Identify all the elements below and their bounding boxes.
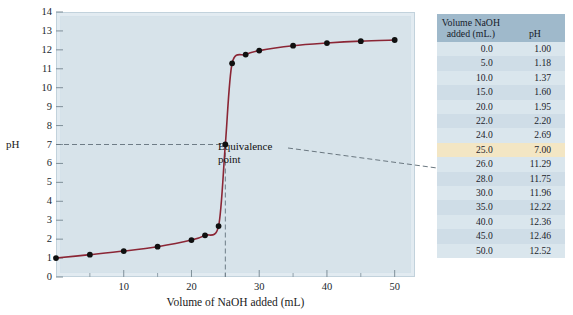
- x-tick-label: 20: [176, 281, 206, 292]
- table-body: 0.01.005.01.1810.01.3715.01.6020.01.9522…: [437, 42, 565, 258]
- cell-ph: 1.37: [507, 71, 565, 85]
- cell-volume: 0.0: [437, 42, 507, 56]
- y-tick-label: 3: [30, 215, 52, 225]
- y-tick-label: 7: [30, 140, 52, 150]
- table-header: Volume NaOHadded (mL.) pH: [437, 14, 565, 42]
- cell-volume: 50.0: [437, 244, 507, 258]
- cell-ph: 2.20: [507, 114, 565, 128]
- table-row: 28.011.75: [437, 172, 565, 186]
- table-row: 24.02.69: [437, 128, 565, 142]
- table-row: 40.012.36: [437, 215, 565, 229]
- y-tick-label: 13: [30, 26, 52, 36]
- cell-volume: 5.0: [437, 56, 507, 70]
- cell-volume: 15.0: [437, 85, 507, 99]
- cell-volume: 45.0: [437, 229, 507, 243]
- cell-ph: 12.52: [507, 244, 565, 258]
- cell-volume: 10.0: [437, 71, 507, 85]
- equivalence-point-annotation: Equivalencepoint: [218, 140, 272, 165]
- cell-ph: 1.95: [507, 100, 565, 114]
- table-row: 50.012.52: [437, 244, 565, 258]
- cell-ph: 2.69: [507, 128, 565, 142]
- y-tick-label: 2: [30, 234, 52, 244]
- table-row: 15.01.60: [437, 85, 565, 99]
- y-tick-label: 5: [30, 177, 52, 187]
- table-row: 5.01.18: [437, 56, 565, 70]
- cell-ph: 12.22: [507, 200, 565, 214]
- column-header-ph: pH: [507, 14, 565, 42]
- cell-volume: 24.0: [437, 128, 507, 142]
- table-row: 22.02.20: [437, 114, 565, 128]
- table-row-equivalence: 25.07.00: [437, 143, 565, 157]
- x-tick-label: 10: [109, 281, 139, 292]
- cell-volume: 30.0: [437, 186, 507, 200]
- y-tick-label: 9: [30, 102, 52, 112]
- cell-volume: 22.0: [437, 114, 507, 128]
- x-tick-label: 30: [244, 281, 274, 292]
- cell-volume: 35.0: [437, 200, 507, 214]
- cell-ph: 7.00: [507, 143, 565, 157]
- table-row: 10.01.37: [437, 71, 565, 85]
- titration-chart: 01234567891011121314 1020304050 pH Volum…: [0, 0, 425, 315]
- y-tick-label: 0: [30, 272, 52, 282]
- y-tick-label: 6: [30, 158, 52, 168]
- cell-volume: 20.0: [437, 100, 507, 114]
- column-header-volume: Volume NaOHadded (mL.): [437, 14, 507, 42]
- titration-figure: 01234567891011121314 1020304050 pH Volum…: [0, 0, 573, 315]
- equivalence-guide-lines: [56, 145, 225, 278]
- table-row: 45.012.46: [437, 229, 565, 243]
- table-header-row: Volume NaOHadded (mL.) pH: [437, 14, 565, 42]
- x-tick-label: 50: [380, 281, 410, 292]
- cell-ph: 11.96: [507, 186, 565, 200]
- cell-volume: 25.0: [437, 143, 507, 157]
- y-tick-label: 1: [30, 253, 52, 263]
- y-tick-label: 12: [30, 45, 52, 55]
- table-row: 0.01.00: [437, 42, 565, 56]
- cell-ph: 1.60: [507, 85, 565, 99]
- y-tick-label: 11: [30, 64, 52, 74]
- table-row: 26.011.29: [437, 157, 565, 171]
- cell-ph: 1.18: [507, 56, 565, 70]
- table-row: 35.012.22: [437, 200, 565, 214]
- y-tick-label: 10: [30, 83, 52, 93]
- table-row: 30.011.96: [437, 186, 565, 200]
- cell-ph: 11.75: [507, 172, 565, 186]
- table-row: 20.01.95: [437, 100, 565, 114]
- y-axis-tick-labels: 01234567891011121314: [26, 12, 52, 277]
- cell-volume: 26.0: [437, 157, 507, 171]
- y-tick-label: 4: [30, 196, 52, 206]
- cell-ph: 12.46: [507, 229, 565, 243]
- x-axis-tick-labels: 1020304050: [56, 281, 415, 297]
- x-axis-title: Volume of NaOH added (mL): [56, 296, 415, 308]
- y-axis-title: pH: [6, 138, 19, 150]
- cell-volume: 28.0: [437, 172, 507, 186]
- titration-data-table: Volume NaOHadded (mL.) pH 0.01.005.01.18…: [437, 14, 565, 258]
- cell-volume: 40.0: [437, 215, 507, 229]
- y-tick-label: 14: [30, 7, 52, 17]
- cell-ph: 12.36: [507, 215, 565, 229]
- x-tick-label: 40: [312, 281, 342, 292]
- cell-ph: 1.00: [507, 42, 565, 56]
- y-tick-label: 8: [30, 121, 52, 131]
- cell-ph: 11.29: [507, 157, 565, 171]
